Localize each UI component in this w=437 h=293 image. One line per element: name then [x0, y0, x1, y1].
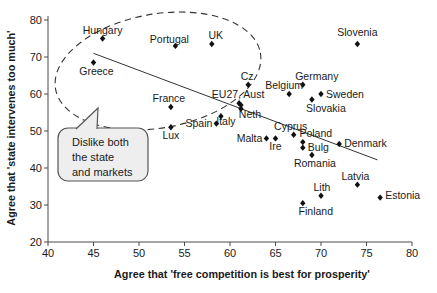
data-point-lith — [318, 193, 323, 199]
scatter-plot: 40455055606570758020304050607080Agree th… — [0, 0, 437, 293]
x-tick-label: 60 — [224, 247, 236, 259]
data-point-cyprus — [291, 132, 296, 138]
y-tick-label: 30 — [30, 199, 42, 211]
callout-text-line: the state — [72, 151, 114, 163]
point-label-eu27: EU27, Aust — [212, 88, 265, 100]
y-tick-label: 20 — [30, 236, 42, 248]
data-point-estonia — [377, 194, 382, 200]
data-point-hungary — [100, 35, 105, 41]
data-point-malta — [264, 135, 269, 141]
point-label-denmark: Denmark — [344, 137, 387, 149]
point-label-lux: Lux — [162, 129, 180, 141]
y-tick-label: 80 — [30, 14, 42, 26]
point-label-slovakia: Slovakia — [306, 102, 346, 114]
callout-pointer — [76, 108, 98, 129]
y-axis-title: Agree that 'state intervenes too much' — [5, 30, 17, 226]
y-tick-label: 70 — [30, 51, 42, 63]
point-label-slovenia: Slovenia — [337, 26, 377, 38]
x-tick-label: 75 — [360, 247, 372, 259]
point-label-malta: Malta — [237, 132, 263, 144]
y-tick-label: 40 — [30, 162, 42, 174]
point-label-belgium: Belgium — [265, 79, 303, 91]
data-point-slovenia — [355, 41, 360, 47]
x-tick-label: 70 — [315, 247, 327, 259]
point-label-cz: Cz — [241, 70, 254, 82]
x-tick-label: 80 — [406, 247, 418, 259]
data-point-france — [168, 104, 173, 110]
x-tick-label: 45 — [87, 247, 99, 259]
x-tick-label: 55 — [178, 247, 190, 259]
callout-text-line: Dislike both — [72, 136, 129, 148]
x-tick-label: 40 — [42, 247, 54, 259]
point-label-portugal: Portugal — [150, 33, 189, 45]
data-point-poland — [300, 139, 305, 145]
callout-text-line: and markets — [72, 166, 133, 178]
point-label-latvia: Latvia — [341, 170, 369, 182]
figure: 40455055606570758020304050607080Agree th… — [0, 0, 437, 293]
x-axis-title: Agree that 'free competition is best for… — [114, 268, 370, 280]
point-label-estonia: Estonia — [385, 189, 420, 201]
point-label-uk: UK — [209, 29, 224, 41]
point-label-bulg: Bulg — [308, 141, 329, 153]
point-label-spain: Spain — [185, 117, 212, 129]
data-point-belgium — [286, 91, 291, 97]
data-point-bulg — [300, 144, 305, 150]
x-tick-label: 65 — [269, 247, 281, 259]
point-label-sweden: Sweden — [326, 88, 364, 100]
point-label-finland: Finland — [299, 205, 334, 217]
data-point-sweden — [318, 91, 323, 97]
point-label-hungary: Hungary — [83, 24, 123, 36]
point-label-greece: Greece — [79, 65, 114, 77]
data-point-uk — [209, 41, 214, 47]
point-label-poland: Poland — [299, 127, 332, 139]
point-label-lith: Lith — [314, 181, 331, 193]
data-point-latvia — [355, 181, 360, 187]
point-label-neth: Neth — [239, 108, 261, 120]
data-point-cz — [246, 82, 251, 88]
point-label-romania: Romania — [294, 157, 336, 169]
x-tick-label: 50 — [133, 247, 145, 259]
point-label-ire: Ire — [269, 140, 281, 152]
y-tick-label: 60 — [30, 88, 42, 100]
point-label-france: France — [153, 92, 186, 104]
y-tick-label: 50 — [30, 125, 42, 137]
point-label-italy: Italy — [216, 115, 236, 127]
